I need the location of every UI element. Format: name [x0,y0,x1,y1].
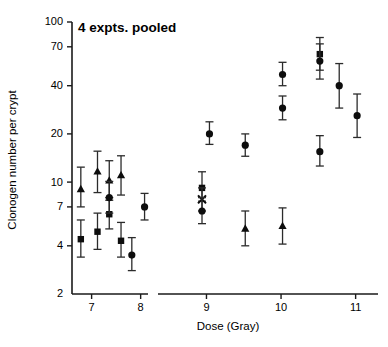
marker-circle-icon [106,194,113,201]
y-tick-label: 40 [51,79,63,91]
x-tick-label: 11 [350,301,361,313]
marker-triangle-icon [278,222,286,229]
marker-square-icon [118,238,124,244]
marker-circle-icon [206,130,213,137]
y-tick-label: 100 [45,15,63,27]
marker-triangle-icon [241,224,249,231]
marker-triangle-icon [117,171,125,178]
data-point-circle [128,238,136,271]
y-tick-label: 70 [51,40,63,52]
marker-circle-icon [316,57,323,64]
data-point-circle [241,134,249,156]
marker-circle-icon [279,104,286,111]
x-tick-label: 8 [138,301,144,313]
y-tick-label: 2 [57,287,63,299]
chart-figure: 10070402010742 7891011 4 expts. pooled D… [0,0,388,347]
data-point-triangle [241,211,249,246]
data-point-circle [316,136,324,166]
data-point-circle [205,122,213,145]
x-axis-title: Dose (Gray) [197,320,260,332]
data-points-layer [77,38,361,271]
axes-layer [67,22,378,299]
marker-circle-icon [316,148,323,155]
data-point-circle [141,193,149,220]
data-point-square [117,222,125,257]
marker-circle-icon [198,207,205,214]
marker-triangle-icon [77,185,85,192]
data-point-circle [335,64,343,109]
marker-circle-icon [336,82,343,89]
clonogen-dose-scatter-chart: 10070402010742 7891011 4 expts. pooled D… [0,0,388,347]
y-tick-labels: 10070402010742 [45,15,63,299]
data-point-triangle [77,167,85,207]
marker-square-icon [94,228,100,234]
marker-circle-icon [141,203,148,210]
data-point-triangle [278,208,286,244]
marker-circle-icon [279,71,286,78]
y-tick-label: 10 [51,176,63,188]
y-tick-label: 20 [51,127,63,139]
y-tick-label: 7 [57,200,63,212]
marker-circle-icon [128,251,135,258]
marker-circle-icon [242,142,249,149]
x-tick-label: 10 [275,301,287,313]
data-point-square [93,213,101,249]
x-tick-label: 9 [203,301,209,313]
marker-circle-icon [354,112,361,119]
data-point-circle [279,96,287,120]
marker-square-icon [78,236,84,242]
x-tick-labels: 7891011 [89,301,362,313]
marker-triangle-icon [93,167,101,174]
x-tick-label: 7 [89,301,95,313]
data-point-square [77,220,85,257]
data-point-circle [316,44,324,79]
data-point-triangle [117,156,125,195]
y-axis-title: Clonogen number per crypt [6,90,18,230]
data-point-triangle [93,151,101,192]
data-point-circle [105,181,113,213]
data-point-circle [279,62,287,85]
data-point-circle [353,94,361,137]
plot-title: 4 expts. pooled [78,20,176,35]
y-tick-label: 4 [57,239,63,251]
